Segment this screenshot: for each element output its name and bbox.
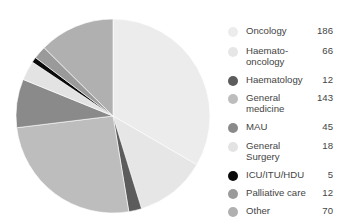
legend-marker-icon — [228, 47, 238, 57]
legend-item-general-surgery: GeneralSurgery 18 — [228, 140, 337, 169]
legend-label-line1: Haemato- — [246, 45, 288, 56]
legend-item-general-medicine: Generalmedicine 143 — [228, 92, 337, 121]
pie-chart — [0, 0, 215, 221]
legend-item-mau: MAU 45 — [228, 121, 337, 140]
legend-value: 5 — [328, 169, 333, 180]
legend-marker-icon — [228, 171, 238, 181]
legend-value: 18 — [322, 140, 333, 151]
legend-label: Other — [246, 205, 314, 216]
legend-value: 45 — [322, 121, 333, 132]
legend-marker-icon — [228, 123, 238, 133]
legend-marker-icon — [228, 94, 238, 104]
legend-value: 12 — [322, 187, 333, 198]
legend-item-haemato-oncology: Haemato-oncology 66 — [228, 45, 337, 74]
pie-slice-general-medicine — [17, 116, 129, 213]
legend-value: 186 — [317, 25, 333, 36]
legend-label: GeneralSurgery — [246, 140, 314, 162]
legend-label-line1: General — [246, 92, 280, 103]
legend-marker-icon — [228, 76, 238, 86]
legend-label-line2: medicine — [246, 103, 284, 114]
legend-label: Haemato-oncology — [246, 45, 314, 67]
legend: Oncology 186 Haemato-oncology 66 Haemato… — [228, 25, 337, 221]
legend-label: ICU/ITU/HDU — [246, 169, 314, 180]
legend-item-palliative-care: Palliative care 12 — [228, 187, 337, 205]
legend-item-oncology: Oncology 186 — [228, 25, 337, 45]
legend-value: 66 — [322, 45, 333, 56]
legend-marker-icon — [228, 189, 238, 199]
legend-label: Palliative care — [246, 187, 314, 198]
legend-marker-icon — [228, 142, 238, 152]
legend-label: Oncology — [246, 25, 314, 36]
legend-item-icu-itu-hdu: ICU/ITU/HDU 5 — [228, 169, 337, 187]
legend-label: Haematology — [246, 74, 314, 85]
legend-marker-icon — [228, 207, 238, 217]
legend-label-line1: General — [246, 140, 280, 151]
legend-item-haematology: Haematology 12 — [228, 74, 337, 92]
legend-marker-icon — [228, 27, 238, 37]
legend-label-line2: Surgery — [246, 151, 280, 162]
legend-value: 70 — [322, 205, 333, 216]
legend-value: 143 — [317, 92, 333, 103]
legend-value: 12 — [322, 74, 333, 85]
legend-label: MAU — [246, 121, 314, 132]
legend-item-other: Other 70 — [228, 205, 337, 221]
legend-label: Generalmedicine — [246, 92, 314, 114]
legend-label-line2: oncology — [246, 56, 284, 67]
